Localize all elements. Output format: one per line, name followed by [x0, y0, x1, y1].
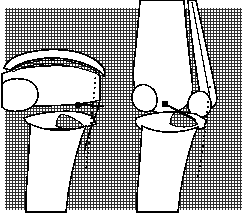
figure-root: Knee joint ACL graft illustration Two bl… [0, 0, 247, 218]
knee-illustration [0, 0, 247, 218]
guide-pin-line-left [78, 105, 104, 106]
guide-pin-head-left [75, 102, 81, 108]
guide-pin-head-right [162, 101, 169, 108]
femoral-condyle-left [2, 79, 38, 112]
femoral-condyle-medial-right [132, 85, 157, 112]
